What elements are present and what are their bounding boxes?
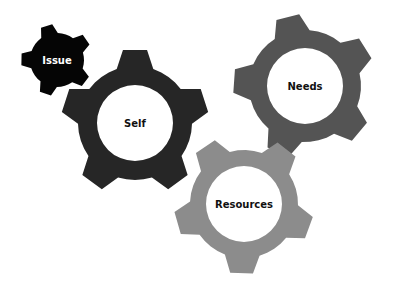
resources-label: Resources (215, 199, 273, 210)
self-label: Self (124, 118, 146, 129)
needs-label: Needs (287, 81, 322, 92)
issue-label: Issue (42, 55, 72, 66)
gears-diagram: Issue Self Needs Resources (0, 0, 394, 290)
gears-canvas (0, 0, 394, 290)
